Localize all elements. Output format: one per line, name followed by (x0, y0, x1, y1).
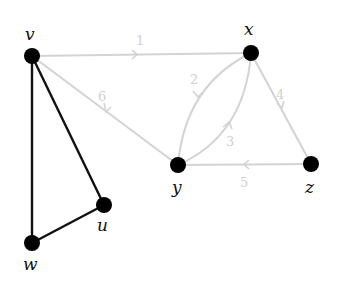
edge-weight-label: 4 (276, 87, 284, 102)
node-label-y: y (171, 177, 182, 197)
edge-weight-label: 3 (226, 134, 234, 149)
node-label-w: w (23, 254, 38, 274)
edge-v-x (32, 53, 251, 56)
edge-y-x (178, 53, 251, 165)
edge-v-u (32, 56, 104, 205)
edge-weight-label: 1 (136, 33, 144, 48)
edge-x-y (178, 53, 251, 165)
edge-weight-label: 6 (98, 89, 106, 104)
node-y (170, 157, 186, 173)
edge-x-z (251, 53, 311, 164)
node-u (96, 197, 112, 213)
graph-diagram: 1 2 3 4 5 6 v x y z u w (0, 0, 337, 284)
node-label-v: v (25, 24, 35, 44)
arrow-icon (104, 103, 111, 112)
edge-weight-label: 5 (240, 175, 248, 190)
edge-u-w (32, 205, 104, 243)
node-label-u: u (97, 215, 108, 235)
node-v (24, 48, 40, 64)
node-label-x: x (244, 19, 254, 39)
node-x (243, 45, 259, 61)
node-w (24, 235, 40, 251)
node-label-z: z (304, 177, 315, 197)
node-z (303, 156, 319, 172)
edge-weight-label: 2 (190, 72, 198, 87)
